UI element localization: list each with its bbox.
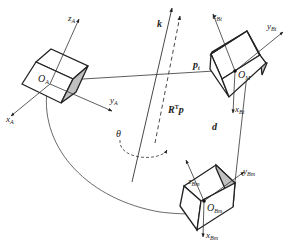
frame-bm-x-label: xBm xyxy=(205,230,219,241)
frame-bt-z-label: zBt xyxy=(212,11,222,22)
frame-a-box xyxy=(22,49,88,103)
frame-a-y-label: yA xyxy=(109,95,118,106)
frame-diagram: zA yA xA OA zBt yBt xBt OM zBm yBm xBm O… xyxy=(0,0,291,242)
frame-a-z-label: zA xyxy=(67,13,76,24)
frame-bt-x-label: xBt xyxy=(234,104,245,115)
rtp-label: RTp xyxy=(167,104,184,115)
theta-arc xyxy=(120,140,167,157)
frame-bt-y-label: yBt xyxy=(266,21,277,32)
origin-bm-dot xyxy=(202,199,206,203)
d-vector xyxy=(233,74,247,200)
frame-bt-box xyxy=(210,31,267,97)
pt-label: pt xyxy=(192,59,200,71)
k-label: k xyxy=(157,18,162,29)
frame-a-x-label: xA xyxy=(5,114,14,125)
frame-bm-box xyxy=(180,165,235,230)
origin-m-dot xyxy=(233,69,237,73)
rtp-vector xyxy=(155,16,180,143)
frame-bm-y-label: yBm xyxy=(242,166,256,177)
theta-label: θ xyxy=(116,128,121,139)
d-label: d xyxy=(212,121,218,132)
k-axis xyxy=(132,8,172,182)
